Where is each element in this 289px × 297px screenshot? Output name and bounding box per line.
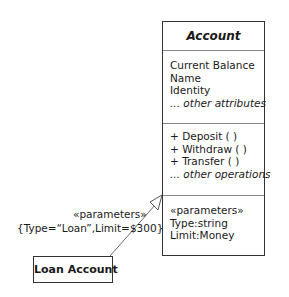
operations-section: + Deposit ( ) + Withdraw ( ) + Transfer … bbox=[163, 123, 264, 180]
parameter: Type:string bbox=[170, 217, 264, 230]
attribute: Current Balance bbox=[170, 59, 264, 72]
parameter: Limit:Money bbox=[170, 229, 264, 242]
operation: + Withdraw ( ) bbox=[170, 143, 264, 156]
account-class: Account Current Balance Name Identity ..… bbox=[162, 21, 265, 256]
operations-more: ... other operations bbox=[170, 168, 264, 181]
binding-stereotype: «parameters» bbox=[73, 208, 147, 220]
parameters-section: «parameters» Type:string Limit:Money bbox=[163, 195, 264, 242]
attribute: Identity bbox=[170, 84, 264, 97]
parameters-stereotype: «parameters» bbox=[170, 204, 264, 217]
loan-account-class: Loan Account bbox=[33, 256, 113, 283]
attributes-more: ... other attributes bbox=[170, 97, 264, 110]
class-name: Account bbox=[163, 22, 264, 51]
operation: + Transfer ( ) bbox=[170, 155, 264, 168]
attributes-section: Current Balance Name Identity ... other … bbox=[163, 59, 264, 109]
attribute: Name bbox=[170, 72, 264, 85]
binding-values: {Type=“Loan”,Limit=$300} bbox=[17, 222, 163, 234]
operation: + Deposit ( ) bbox=[170, 130, 264, 143]
